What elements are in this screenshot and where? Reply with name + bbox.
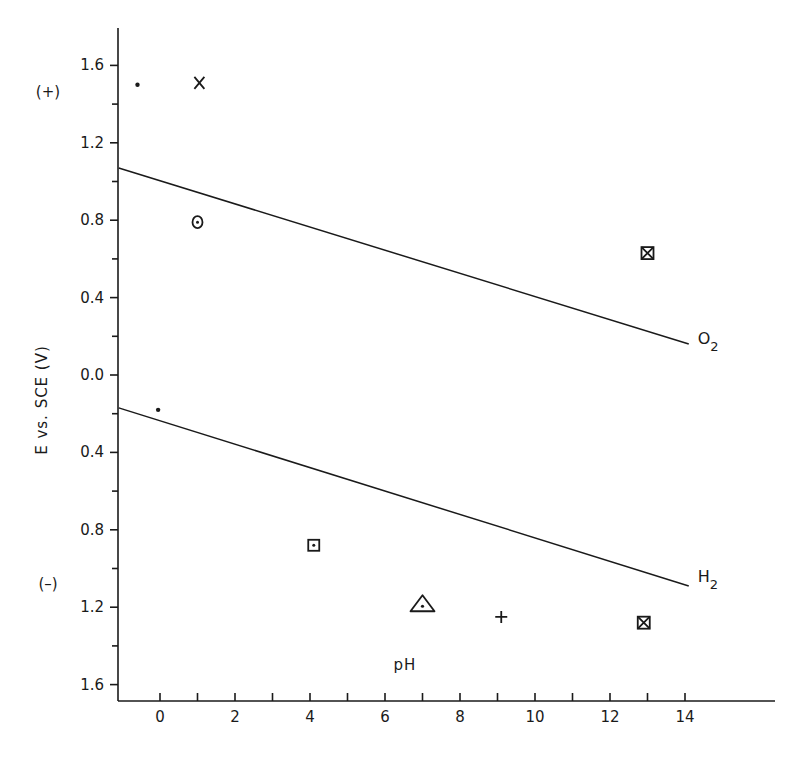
x-marker (194, 77, 204, 89)
series-lines: O2H2 (119, 168, 719, 592)
box-center-dot (312, 544, 315, 547)
data-point-boxed-x (642, 247, 654, 259)
h2-line-label: H2 (698, 567, 718, 592)
y-tick-label: 0.4 (80, 443, 104, 461)
x-tick-label: 0 (155, 708, 165, 726)
h2-label-main: H (698, 567, 710, 586)
data-point-circle-dot (193, 216, 203, 228)
y-tick-label: 0.4 (80, 289, 104, 307)
y-tick-label: 1.6 (80, 56, 104, 74)
plus-marker (495, 611, 507, 623)
y-tick-label: 0.8 (80, 211, 104, 229)
triangle-center-dot (421, 605, 424, 608)
data-point-dot (156, 408, 160, 412)
o2-line (119, 168, 689, 344)
x-tick-label: 2 (230, 708, 240, 726)
x-tick-label: 6 (380, 708, 390, 726)
y-tick-label: 0.8 (80, 521, 104, 539)
x-tick-label: 12 (600, 708, 619, 726)
circle-center-dot (196, 221, 199, 224)
data-point-boxed-dot (308, 540, 319, 551)
triangle-marker (411, 595, 435, 611)
y-tick-label: 1.2 (80, 134, 104, 152)
data-point-plus (495, 611, 507, 623)
h2-line (119, 408, 689, 586)
x-tick-label: 10 (525, 708, 544, 726)
sign-labels: (+)(–) (36, 83, 60, 592)
pourbaix-chart: 1.61.20.80.40.00.40.81.21.6 02468101214 … (0, 0, 812, 757)
x-tick-label: 8 (455, 708, 465, 726)
box-cross (638, 617, 650, 629)
y-axis-title: E vs. SCE (V) (33, 345, 51, 455)
o2-label-sub: 2 (710, 339, 718, 354)
data-point-dot (135, 83, 139, 87)
o2-line-label: O2 (698, 329, 719, 354)
dot-marker (156, 408, 160, 412)
dot-marker (135, 83, 139, 87)
y-tick-label: 1.2 (80, 598, 104, 616)
box-cross (642, 247, 654, 259)
o2-label-main: O (698, 329, 711, 348)
y-tick-label: 0.0 (80, 366, 104, 384)
negative-sign-label: (–) (38, 575, 57, 593)
x-tick-label: 14 (675, 708, 694, 726)
x-axis-title: pH (394, 656, 417, 674)
data-points (135, 77, 653, 629)
data-point-triangle-dot (411, 595, 435, 611)
y-tick-label: 1.6 (80, 676, 104, 694)
y-ticks: 1.61.20.80.40.00.40.81.21.6 (80, 56, 118, 693)
positive-sign-label: (+) (36, 83, 60, 101)
axes (118, 28, 775, 701)
data-point-boxed-x (638, 617, 650, 629)
data-point-x (194, 77, 204, 89)
h2-label-sub: 2 (710, 577, 718, 592)
x-ticks: 02468101214 (155, 693, 694, 726)
x-tick-label: 4 (305, 708, 315, 726)
